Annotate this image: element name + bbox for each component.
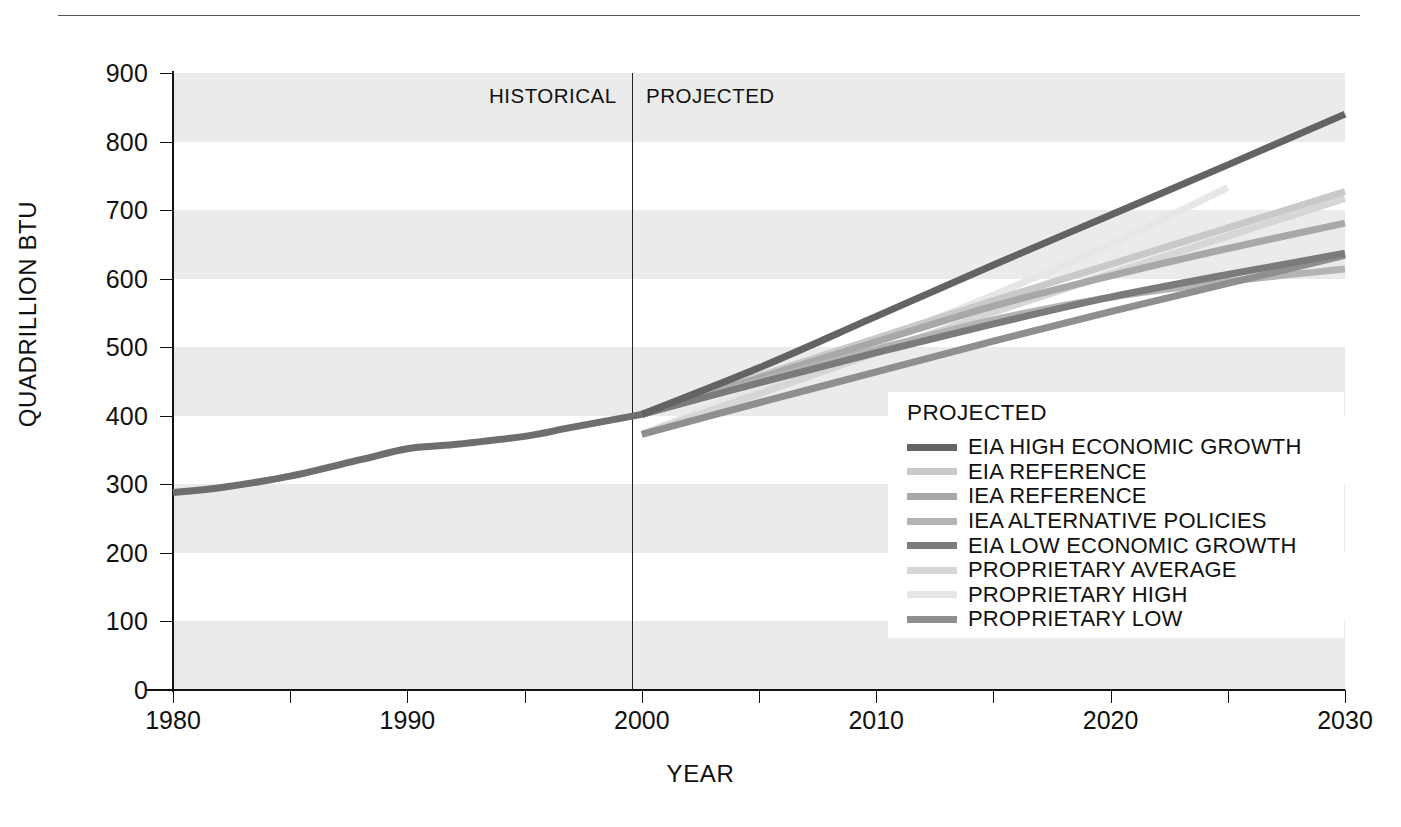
- legend-item-label: PROPRIETARY LOW: [968, 608, 1183, 630]
- legend-swatch-icon: [907, 518, 957, 525]
- x-tick: [1111, 690, 1112, 703]
- top-divider-rule: [58, 15, 1360, 16]
- x-tick-label: 2020: [1051, 706, 1171, 735]
- x-tick: [1228, 690, 1229, 703]
- legend-item-label: EIA LOW ECONOMIC GROWTH: [968, 535, 1297, 557]
- y-tick-label: 0: [38, 676, 148, 705]
- y-axis-title: QUADRILLION BTU: [14, 54, 42, 574]
- y-tick-label: 300: [38, 470, 148, 499]
- legend-swatch-icon: [907, 616, 957, 623]
- background-band: [173, 210, 1345, 279]
- y-tick-label: 900: [38, 59, 148, 88]
- legend-swatch-icon: [907, 493, 957, 500]
- x-tick: [642, 690, 643, 703]
- x-axis-title: YEAR: [0, 760, 1401, 788]
- legend-items: EIA HIGH ECONOMIC GROWTHEIA REFERENCEIEA…: [907, 435, 1337, 632]
- y-tick: [160, 484, 173, 485]
- legend-item[interactable]: EIA HIGH ECONOMIC GROWTH: [907, 435, 1337, 460]
- legend-item[interactable]: PROPRIETARY HIGH: [907, 583, 1337, 608]
- legend-item[interactable]: EIA LOW ECONOMIC GROWTH: [907, 533, 1337, 558]
- x-tick: [993, 690, 994, 703]
- legend-item-label: EIA REFERENCE: [968, 461, 1147, 483]
- legend-swatch-icon: [907, 567, 957, 574]
- y-tick-label: 600: [38, 264, 148, 293]
- legend-item[interactable]: IEA REFERENCE: [907, 484, 1337, 509]
- legend-swatch-icon: [907, 444, 957, 451]
- legend-item-label: IEA ALTERNATIVE POLICIES: [968, 510, 1267, 532]
- legend-swatch-icon: [907, 468, 957, 475]
- era-label-historical: HISTORICAL: [489, 84, 617, 108]
- x-tick: [876, 690, 877, 703]
- y-tick-label: 400: [38, 401, 148, 430]
- legend-item-label: EIA HIGH ECONOMIC GROWTH: [968, 436, 1302, 458]
- legend-item[interactable]: PROPRIETARY LOW: [907, 607, 1337, 632]
- y-tick-label: 500: [38, 333, 148, 362]
- legend-item[interactable]: PROPRIETARY AVERAGE: [907, 558, 1337, 583]
- era-label-projected: PROJECTED: [646, 84, 775, 108]
- legend-item[interactable]: EIA REFERENCE: [907, 460, 1337, 485]
- y-tick: [160, 279, 173, 280]
- legend-item[interactable]: IEA ALTERNATIVE POLICIES: [907, 509, 1337, 534]
- x-tick: [525, 690, 526, 703]
- chart-page: 0100200300400500600700800900 19801990200…: [0, 0, 1401, 827]
- y-tick: [160, 73, 173, 74]
- x-tick-label: 1990: [347, 706, 467, 735]
- y-tick: [160, 553, 173, 554]
- legend-title: PROJECTED: [907, 400, 1047, 426]
- y-tick: [160, 210, 173, 211]
- x-axis-line: [145, 689, 1345, 691]
- y-tick-label: 100: [38, 607, 148, 636]
- y-tick: [160, 690, 173, 691]
- y-tick: [160, 416, 173, 417]
- legend-item-label: PROPRIETARY AVERAGE: [968, 559, 1237, 581]
- y-tick-label: 700: [38, 196, 148, 225]
- era-divider-line: [632, 73, 633, 690]
- x-tick-label: 1980: [113, 706, 233, 735]
- x-tick: [173, 690, 174, 703]
- x-tick: [290, 690, 291, 703]
- legend: PROJECTED EIA HIGH ECONOMIC GROWTHEIA RE…: [888, 392, 1344, 638]
- legend-item-label: PROPRIETARY HIGH: [968, 584, 1188, 606]
- y-tick: [160, 347, 173, 348]
- y-tick-label: 200: [38, 538, 148, 567]
- x-tick-label: 2030: [1285, 706, 1401, 735]
- y-tick: [160, 621, 173, 622]
- x-tick-label: 2010: [816, 706, 936, 735]
- x-tick: [759, 690, 760, 703]
- legend-swatch-icon: [907, 591, 957, 598]
- legend-swatch-icon: [907, 542, 957, 549]
- y-axis-line: [172, 71, 174, 692]
- x-tick: [407, 690, 408, 703]
- y-tick-label: 800: [38, 127, 148, 156]
- x-tick: [1345, 690, 1346, 703]
- legend-item-label: IEA REFERENCE: [968, 485, 1147, 507]
- x-tick-label: 2000: [582, 706, 702, 735]
- y-tick: [160, 142, 173, 143]
